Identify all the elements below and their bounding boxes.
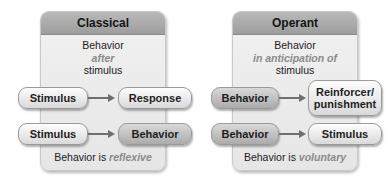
classical-row1-stimulus: Stimulus (18, 87, 88, 109)
classical-row2-arrow (88, 133, 110, 135)
operant-row1-reinforcer: Reinforcer/ punishment (308, 80, 382, 116)
operant-title: Operant (233, 12, 357, 35)
operant-row1-arrow (279, 97, 301, 99)
operant-footer: Behavior is voluntary (233, 151, 357, 163)
operant-row2-behavior: Behavior (211, 123, 279, 145)
operant-description: Behavior in anticipation of stimulus (233, 39, 357, 77)
classical-row1-response: Response (118, 87, 192, 109)
classical-row1-arrow (88, 97, 110, 99)
operant-row1-behavior: Behavior (211, 87, 279, 109)
classical-row2-stimulus: Stimulus (18, 123, 88, 145)
operant-row2-arrow (279, 133, 301, 135)
classical-row2-behavior: Behavior (118, 123, 192, 145)
classical-title: Classical (41, 12, 165, 35)
operant-row2-stimulus: Stimulus (308, 123, 382, 145)
classical-description: Behavior after stimulus (41, 39, 165, 77)
classical-footer: Behavior is reflexive (41, 151, 165, 163)
